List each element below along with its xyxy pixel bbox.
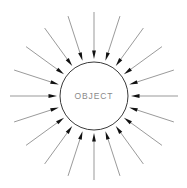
arrow-icon	[68, 131, 83, 176]
arrow-shaft	[108, 16, 120, 54]
arrow-icon	[10, 94, 57, 98]
arrow-shaft	[26, 47, 58, 71]
arrow-head	[105, 52, 109, 61]
arrow-head	[78, 131, 82, 140]
arrow-shaft	[68, 138, 80, 176]
arrow-head	[92, 51, 96, 60]
arrow-shaft	[136, 110, 174, 122]
arrow-icon	[105, 131, 120, 176]
arrow-icon	[92, 133, 96, 180]
arrow-head	[124, 118, 132, 125]
arrow-head	[131, 94, 140, 98]
arrow-head	[66, 126, 73, 134]
arrow-icon	[68, 16, 83, 61]
arrow-icon	[124, 47, 162, 75]
arrow-icon	[26, 47, 64, 75]
arrow-shaft	[14, 110, 52, 122]
arrow-head	[50, 107, 59, 111]
diagram-canvas: OBJECT	[0, 0, 187, 188]
arrow-shaft	[136, 70, 174, 82]
arrow-shaft	[26, 122, 58, 146]
arrow-head	[92, 133, 96, 142]
arrow-head	[50, 80, 59, 84]
arrow-head	[78, 52, 82, 61]
arrow-shaft	[14, 70, 52, 82]
arrow-shaft	[130, 47, 162, 71]
arrow-head	[66, 58, 73, 66]
arrow-head	[116, 58, 123, 66]
arrow-icon	[92, 12, 96, 59]
arrow-icon	[45, 126, 73, 164]
arrow-icon	[129, 107, 174, 122]
arrow-head	[116, 126, 123, 134]
arrow-head	[105, 131, 109, 140]
arrow-head	[56, 68, 64, 75]
arrow-icon	[129, 70, 174, 85]
arrow-head	[49, 94, 58, 98]
arrow-icon	[116, 28, 144, 66]
arrow-shaft	[120, 132, 144, 164]
arrow-icon	[105, 16, 120, 61]
arrow-icon	[14, 70, 59, 85]
object-label: OBJECT	[75, 91, 114, 101]
arrow-head	[56, 118, 64, 125]
arrow-head	[129, 107, 138, 111]
pressure-diagram: OBJECT	[0, 0, 187, 188]
arrow-shaft	[45, 132, 69, 164]
arrow-shaft	[45, 28, 69, 60]
arrow-icon	[116, 126, 144, 164]
arrow-shaft	[68, 16, 80, 54]
arrow-shaft	[120, 28, 144, 60]
arrow-icon	[45, 28, 73, 66]
arrow-icon	[14, 107, 59, 122]
arrow-head	[129, 80, 138, 84]
arrow-icon	[26, 118, 64, 146]
arrow-shaft	[130, 122, 162, 146]
arrow-head	[124, 68, 132, 75]
arrow-icon	[124, 118, 162, 146]
arrow-icon	[131, 94, 178, 98]
arrow-shaft	[108, 138, 120, 176]
